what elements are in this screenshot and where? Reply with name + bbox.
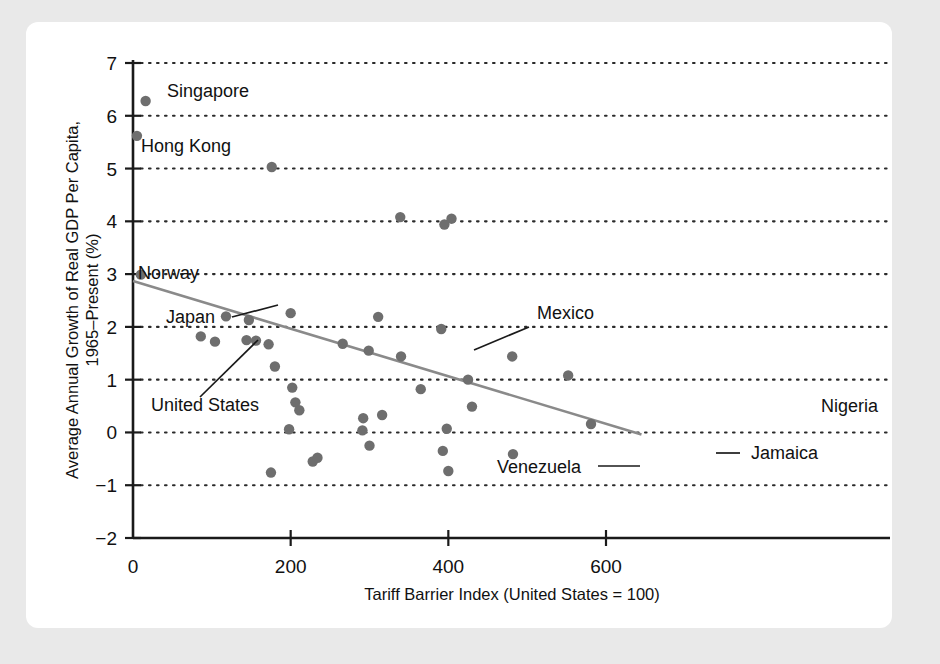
y-tick-label: 1 [106, 370, 117, 391]
x-tick-label: 600 [590, 556, 622, 577]
y-axis-title: Average Annual Growth of Real GDP Per Ca… [63, 121, 81, 479]
point-label: Nigeria [821, 396, 879, 416]
data-point [364, 440, 374, 450]
data-point [446, 213, 456, 223]
annotation-leader-line [200, 340, 258, 397]
data-point [438, 446, 448, 456]
y-axis-title-line2: 1965–Present (%) [83, 234, 101, 367]
figure-root: −2−101234567 0200400600 SingaporeHong Ko… [0, 0, 940, 664]
x-axis-title: Tariff Barrier Index (United States = 10… [364, 585, 659, 603]
data-point [241, 335, 251, 345]
data-point [373, 312, 383, 322]
point-label: United States [151, 395, 259, 415]
y-tick-label: −2 [95, 528, 117, 549]
data-point [357, 425, 367, 435]
data-point [442, 424, 452, 434]
data-point [337, 339, 347, 349]
x-tick-label: 400 [432, 556, 464, 577]
data-point [396, 351, 406, 361]
point-label: Singapore [167, 81, 249, 101]
x-tick-label: 200 [275, 556, 307, 577]
point-label: Jamaica [751, 443, 819, 463]
annotation-labels-group: SingaporeHong KongNorwayJapanUnited Stat… [138, 81, 879, 477]
data-point [463, 374, 473, 384]
y-tick-label: 3 [106, 264, 117, 285]
data-point [312, 453, 322, 463]
data-point [210, 336, 220, 346]
data-point [285, 308, 295, 318]
y-tick-label: 0 [106, 422, 117, 443]
y-tick-label: −1 [95, 475, 117, 496]
data-point [263, 339, 273, 349]
data-point [395, 212, 405, 222]
data-point [358, 413, 368, 423]
data-point [507, 351, 517, 361]
data-point [221, 311, 231, 321]
point-label: Mexico [537, 303, 594, 323]
data-point [436, 324, 446, 334]
data-point [586, 419, 596, 429]
y-tick-label: 6 [106, 106, 117, 127]
annotation-leaders-group [200, 305, 740, 466]
data-point [364, 345, 374, 355]
y-tick-label: 7 [106, 53, 117, 74]
gridlines-group [141, 63, 890, 485]
point-label: Venezuela [497, 457, 582, 477]
point-label: Norway [138, 263, 199, 283]
data-point [140, 96, 150, 106]
data-point [287, 382, 297, 392]
annotation-leader-line [232, 305, 278, 317]
data-point [244, 315, 254, 325]
data-point [294, 405, 304, 415]
x-tick-label: 0 [128, 556, 139, 577]
data-point [266, 467, 276, 477]
data-point [443, 466, 453, 476]
data-point [251, 335, 261, 345]
data-point [270, 361, 280, 371]
point-label: Hong Kong [141, 136, 231, 156]
point-label: Japan [166, 307, 215, 327]
x-tick-labels-group: 0200400600 [128, 556, 622, 577]
data-point [563, 370, 573, 380]
data-point [377, 410, 387, 420]
data-point [267, 162, 277, 172]
data-point [196, 331, 206, 341]
y-tick-label: 5 [106, 159, 117, 180]
annotation-leader-line [474, 327, 529, 350]
data-point [467, 401, 477, 411]
data-point [416, 384, 426, 394]
y-tick-label: 2 [106, 317, 117, 338]
y-tick-label: 4 [106, 211, 117, 232]
scatter-chart: −2−101234567 0200400600 SingaporeHong Ko… [0, 0, 940, 664]
data-point [284, 424, 294, 434]
